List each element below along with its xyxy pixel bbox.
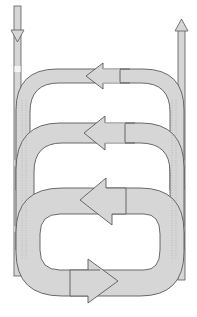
loop-1-left-arrow-icon: [86, 63, 120, 89]
diagram-svg: [0, 0, 197, 317]
loop-2-left-arrow-icon: [84, 116, 125, 150]
loop-3: [16, 178, 184, 303]
cycle-diagram: [0, 0, 197, 317]
loop-3-left-arrow-icon: [80, 178, 126, 225]
